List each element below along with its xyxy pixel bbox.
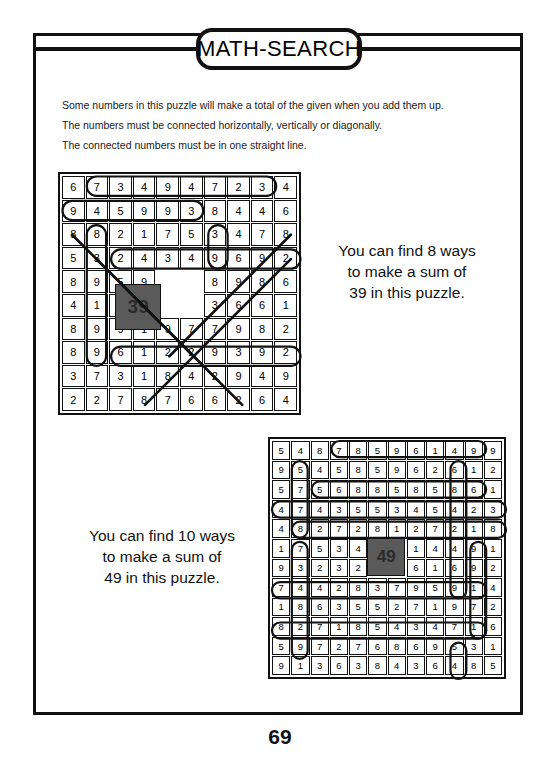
grid-cell: 3 xyxy=(407,656,425,675)
grid-cell: 7 xyxy=(204,176,227,199)
grid-cell: 4 xyxy=(227,200,250,223)
grid-cell: 8 xyxy=(156,365,179,388)
grid-cell: 7 xyxy=(330,441,348,460)
puzzle-49-target: 49 xyxy=(367,538,405,576)
grid-cell: 1 xyxy=(465,617,483,636)
grid-cell: 3 xyxy=(86,247,109,270)
grid-cell: 2 xyxy=(109,247,132,270)
grid-cell: 6 xyxy=(274,200,297,223)
grid-cell: 3 xyxy=(368,578,386,597)
grid-cell: 9 xyxy=(407,578,425,597)
grid-cell: 2 xyxy=(388,598,406,617)
grid-cell: 8 xyxy=(133,388,156,411)
instruction-line-1: Some numbers in this puzzle will make a … xyxy=(62,98,482,113)
grid-cell: 9 xyxy=(465,539,483,558)
grid-cell: 3 xyxy=(330,539,348,558)
grid-cell: 5 xyxy=(311,480,329,499)
grid-cell: 9 xyxy=(251,247,274,270)
grid-cell: 1 xyxy=(465,578,483,597)
grid-cell: 8 xyxy=(62,270,85,293)
grid-cell: 8 xyxy=(368,480,386,499)
grid-cell: 9 xyxy=(291,637,309,656)
grid-cell: 8 xyxy=(204,200,227,223)
grid-cell: 4 xyxy=(180,365,203,388)
grid-cell: 6 xyxy=(109,341,132,364)
grid-cell: 6 xyxy=(180,388,203,411)
grid-cell: 3 xyxy=(156,247,179,270)
caption-49-line-2: to make a sum of xyxy=(62,546,262,567)
puzzle-49-caption: You can find 10 ways to make a sum of 49… xyxy=(62,525,262,588)
grid-cell: 9 xyxy=(251,341,274,364)
grid-cell: 2 xyxy=(291,617,309,636)
grid-cell: 4 xyxy=(291,578,309,597)
grid-cell: 9 xyxy=(388,441,406,460)
grid-cell: 1 xyxy=(426,598,444,617)
grid-cell: 7 xyxy=(291,480,309,499)
caption-49-line-3: 49 in this puzzle. xyxy=(62,567,262,588)
grid-cell: 4 xyxy=(62,294,85,317)
grid-cell: 2 xyxy=(62,388,85,411)
grid-cell: 8 xyxy=(62,341,85,364)
grid-cell: 2 xyxy=(109,223,132,246)
grid-cell: 2 xyxy=(204,365,227,388)
grid-cell: 6 xyxy=(445,461,463,480)
grid-cell: 5 xyxy=(272,637,290,656)
grid-cell: 1 xyxy=(484,637,502,656)
grid-cell: 4 xyxy=(426,617,444,636)
grid-cell: 1 xyxy=(133,365,156,388)
grid-cell: 6 xyxy=(407,441,425,460)
grid-cell: 3 xyxy=(204,223,227,246)
grid-cell: 4 xyxy=(133,247,156,270)
caption-39-line-1: You can find 8 ways xyxy=(312,240,502,261)
grid-cell: 5 xyxy=(291,461,309,480)
grid-cell: 9 xyxy=(272,461,290,480)
grid-cell: 4 xyxy=(311,461,329,480)
grid-cell: 2 xyxy=(274,318,297,341)
grid-cell: 9 xyxy=(426,637,444,656)
instructions: Some numbers in this puzzle will make a … xyxy=(62,98,482,158)
grid-cell: 4 xyxy=(445,441,463,460)
caption-39-line-3: 39 in this puzzle. xyxy=(312,282,502,303)
caption-49-line-1: You can find 10 ways xyxy=(62,525,262,546)
grid-cell: 4 xyxy=(180,176,203,199)
grid-cell: 8 xyxy=(204,270,227,293)
grid-cell: 4 xyxy=(180,247,203,270)
grid-cell: 8 xyxy=(62,223,85,246)
grid-cell: 7 xyxy=(156,223,179,246)
grid-cell: 4 xyxy=(388,656,406,675)
grid-cell: 8 xyxy=(349,461,367,480)
grid-cell: 6 xyxy=(251,388,274,411)
grid-cell: 8 xyxy=(349,578,367,597)
title-banner: MATH-SEARCH xyxy=(33,28,523,70)
grid-cell: 4 xyxy=(272,519,290,538)
grid-cell: 7 xyxy=(180,318,203,341)
grid-cell: 6 xyxy=(368,637,386,656)
grid-cell: 3 xyxy=(388,500,406,519)
grid-cell: 2 xyxy=(227,388,250,411)
grid-cell: 4 xyxy=(227,223,250,246)
grid-cell: 9 xyxy=(204,341,227,364)
grid-cell: 8 xyxy=(62,318,85,341)
grid-cell: 4 xyxy=(86,200,109,223)
grid-cell: 1 xyxy=(465,461,483,480)
grid-cell: 9 xyxy=(227,365,250,388)
grid-cell: 9 xyxy=(86,341,109,364)
grid-cell: 7 xyxy=(388,578,406,597)
grid-cell: 6 xyxy=(407,559,425,578)
grid-cell: 8 xyxy=(349,617,367,636)
grid-cell: 4 xyxy=(349,539,367,558)
grid-cell: 5 xyxy=(445,637,463,656)
grid-cell: 2 xyxy=(180,341,203,364)
grid-cell: 3 xyxy=(407,617,425,636)
grid-cell: 1 xyxy=(426,559,444,578)
grid-cell: 4 xyxy=(426,539,444,558)
grid-cell: 7 xyxy=(204,318,227,341)
grid-cell: 7 xyxy=(156,388,179,411)
grid-cell: 9 xyxy=(86,318,109,341)
grid-cell: 4 xyxy=(311,500,329,519)
grid-cell: 5 xyxy=(109,200,132,223)
grid-cell: 9 xyxy=(388,461,406,480)
grid-cell: 6 xyxy=(274,270,297,293)
grid-cell: 2 xyxy=(156,341,179,364)
grid-cell: 9 xyxy=(445,578,463,597)
